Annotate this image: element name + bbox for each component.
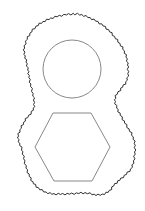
circle-shape <box>43 40 101 98</box>
hexagon-shape <box>35 113 110 181</box>
line-drawing <box>0 0 145 211</box>
diagram-canvas <box>0 0 145 211</box>
